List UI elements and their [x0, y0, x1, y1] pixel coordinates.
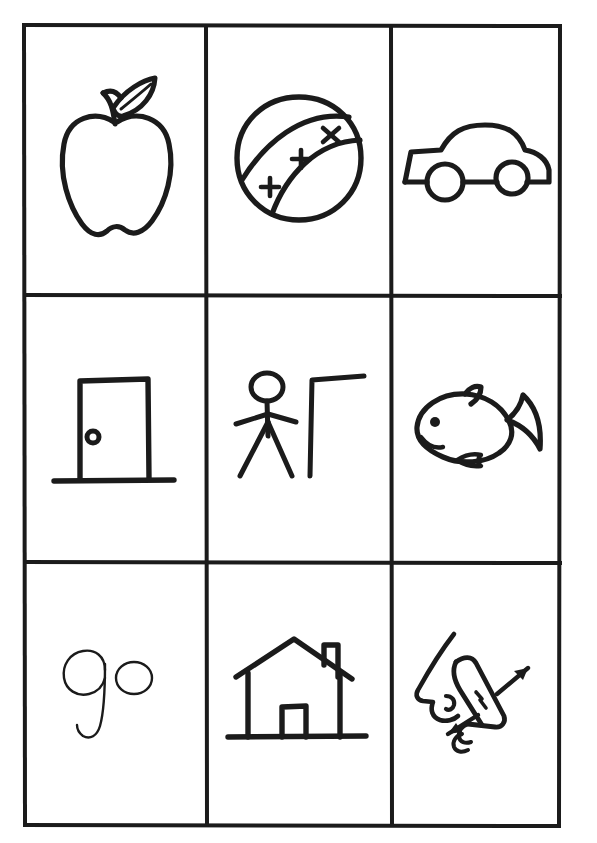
cell-layer: go go — [22, 23, 562, 828]
ball-mark-1 — [261, 178, 279, 196]
cell-car[interactable] — [391, 23, 562, 295]
picture-card-grid: go go — [22, 23, 562, 828]
cell-person-and-pole[interactable] — [206, 295, 391, 562]
cell-fish[interactable] — [391, 295, 562, 562]
cell-ball[interactable] — [206, 23, 391, 295]
ball-mark-2 — [292, 150, 310, 168]
cell-pointing-hand-and-face[interactable] — [391, 562, 562, 828]
up-right-arrow-icon — [497, 668, 528, 694]
cell-apple[interactable] — [22, 23, 206, 295]
pointing-hand-and-face-icon — [402, 630, 552, 760]
cell-door[interactable] — [22, 295, 206, 562]
ball-mark-3 — [323, 128, 339, 142]
car-icon — [397, 114, 557, 204]
house-icon — [224, 635, 374, 755]
cell-go-text[interactable]: go go — [22, 562, 206, 828]
face-profile-icon — [416, 634, 457, 721]
person-and-pole-icon — [224, 364, 374, 494]
apple-icon — [39, 72, 189, 247]
fish-icon — [399, 381, 554, 476]
door-icon — [44, 359, 184, 499]
ball-icon — [224, 84, 374, 234]
worksheet-sheet: go go — [0, 0, 597, 843]
pointing-hand-icon — [453, 658, 504, 752]
stick-figure — [236, 373, 296, 476]
pole-icon — [310, 376, 364, 476]
handwritten-go-text: go — [49, 640, 179, 750]
cell-house[interactable] — [206, 562, 391, 828]
